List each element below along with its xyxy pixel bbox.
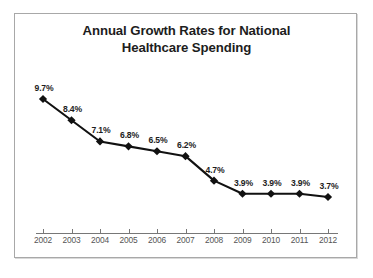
x-axis-label: 2003 (62, 235, 80, 245)
x-axis-tick (271, 229, 272, 234)
x-axis-tick (186, 229, 187, 234)
data-point-marker (238, 190, 246, 198)
x-axis-label: 2009 (233, 235, 251, 245)
x-axis-label: 2012 (319, 235, 337, 245)
line-series-svg (15, 14, 358, 259)
data-point-label: 6.2% (177, 140, 196, 150)
x-axis-label: 2008 (205, 235, 223, 245)
data-point-marker (295, 190, 303, 198)
x-axis-label: 2004 (91, 235, 109, 245)
x-axis-tick (243, 229, 244, 234)
data-point-label: 3.9% (234, 178, 253, 188)
data-point-label: 6.5% (149, 135, 168, 145)
x-axis-tick (43, 229, 44, 234)
x-axis-tick (214, 229, 215, 234)
data-point-label: 9.7% (35, 83, 54, 93)
x-axis-label: 2010 (262, 235, 280, 245)
x-axis-tick (157, 229, 158, 234)
x-axis-tick (129, 229, 130, 234)
data-point-label: 6.8% (120, 130, 139, 140)
data-point-label: 3.9% (263, 178, 282, 188)
x-axis-tick (100, 229, 101, 234)
data-point-marker (124, 142, 132, 150)
x-axis-label: 2007 (176, 235, 194, 245)
data-point-marker (324, 193, 332, 201)
data-point-label: 4.7% (206, 165, 225, 175)
x-axis-tick (72, 229, 73, 234)
chart-frame: Annual Growth Rates for National Healthc… (14, 13, 357, 258)
plot-area: 9.7%8.4%7.1%6.8%6.5%6.2%4.7%3.9%3.9%3.9%… (15, 14, 358, 259)
data-point-label: 8.4% (63, 104, 82, 114)
data-point-label: 3.7% (320, 181, 339, 191)
screenshot-canvas: Annual Growth Rates for National Healthc… (0, 0, 373, 278)
x-axis-label: 2006 (148, 235, 166, 245)
x-axis-tick (300, 229, 301, 234)
x-axis-label: 2005 (119, 235, 137, 245)
x-axis-label: 2002 (34, 235, 52, 245)
x-axis-tick (328, 229, 329, 234)
x-axis-line (36, 233, 338, 234)
data-point-label: 7.1% (92, 125, 111, 135)
data-point-marker (153, 147, 161, 155)
data-point-label: 3.9% (291, 178, 310, 188)
data-point-marker (267, 190, 275, 198)
x-axis-label: 2011 (291, 235, 309, 245)
